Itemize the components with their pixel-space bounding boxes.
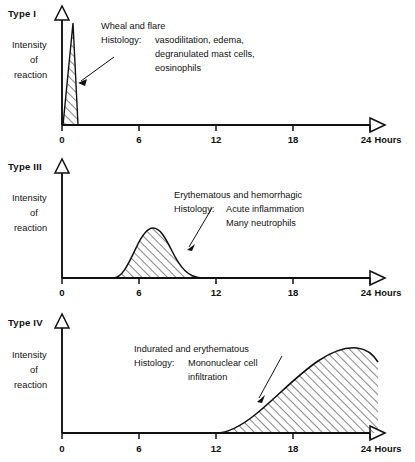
y-axis-label-line-3: reaction (14, 70, 47, 80)
panel-type-1: 0 6 12 18 24 Hours Type I Intensity of r… (0, 0, 415, 154)
y-axis-label-line-3: reaction (14, 380, 47, 390)
x-tick-label-12: 12 (211, 443, 222, 454)
annotation-line-3: infiltration (188, 372, 227, 382)
annotation-leader-arrow-icon (257, 395, 265, 403)
y-axis-label-line-2: of (30, 365, 38, 375)
annotation-line-1: Erythematous and hemorrhagic (174, 190, 303, 200)
x-axis-unit-label: Hours (375, 135, 402, 145)
x-tick-label-0: 0 (59, 134, 64, 145)
x-tick-label-24: 24 (361, 443, 372, 454)
x-tick-label-18: 18 (288, 443, 299, 454)
x-tick-label-18: 18 (288, 287, 299, 298)
chart-type-4: 0 6 12 18 24 Hours Type IV Intensity of … (0, 306, 415, 462)
panel-title-type-1: Type I (8, 8, 36, 19)
curve-area-type-3 (113, 228, 203, 278)
x-axis-arrowhead-icon (370, 271, 385, 285)
y-axis-label-line-2: of (30, 55, 38, 65)
y-axis-label-line-2: of (30, 208, 38, 218)
x-axis-unit-label: Hours (375, 288, 402, 298)
y-axis-arrowhead-icon (55, 314, 69, 328)
hypersensitivity-figure: 0 6 12 18 24 Hours Type I Intensity of r… (0, 0, 415, 462)
x-axis-arrowhead-icon (370, 118, 385, 132)
annotation-line-2: Mononuclear cell (188, 358, 257, 368)
x-axis-unit-label: Hours (375, 444, 402, 454)
annotation-line-1: Wheal and flare (101, 21, 165, 31)
y-axis-arrowhead-icon (55, 159, 69, 173)
annotation-line-4: eosinophils (155, 63, 201, 73)
y-axis-label-line-3: reaction (14, 223, 47, 233)
x-tick-label-0: 0 (59, 443, 64, 454)
annotation-line-2: Acute inflammation (226, 204, 304, 214)
annotation-line-2: vasodilitation, edema, (155, 35, 244, 45)
panel-type-3: 0 6 12 18 24 Hours Type III Intensity of… (0, 153, 415, 307)
annotation-leader-line-4 (259, 356, 282, 398)
annotation-line-1: Indurated and erythematous (134, 344, 249, 354)
x-tick-label-6: 6 (136, 134, 141, 145)
chart-type-3: 0 6 12 18 24 Hours Type III Intensity of… (0, 153, 415, 307)
y-axis-arrowhead-icon (55, 6, 69, 20)
annotation-histology-label-1: Histology: (101, 35, 141, 45)
x-tick-label-18: 18 (288, 134, 299, 145)
annotation-histology-label-3: Histology: (174, 204, 214, 214)
curve-area-type-1 (63, 23, 78, 125)
annotation-leader-line-1 (81, 57, 114, 81)
annotation-leader-arrow-icon (187, 244, 195, 251)
chart-type-1: 0 6 12 18 24 Hours Type I Intensity of r… (0, 0, 415, 154)
x-tick-label-0: 0 (59, 287, 64, 298)
annotation-line-3: degranulated mast cells, (155, 49, 255, 59)
x-tick-label-24: 24 (361, 134, 372, 145)
y-axis-label-line-1: Intensity (12, 350, 47, 360)
x-tick-label-24: 24 (361, 287, 372, 298)
panel-title-type-3: Type III (8, 161, 42, 172)
panel-type-4: 0 6 12 18 24 Hours Type IV Intensity of … (0, 306, 415, 460)
x-tick-label-12: 12 (211, 134, 222, 145)
x-tick-label-12: 12 (211, 287, 222, 298)
x-tick-label-6: 6 (136, 443, 141, 454)
annotation-line-3: Many neutrophils (226, 218, 296, 228)
y-axis-label-line-1: Intensity (12, 40, 47, 50)
y-axis-label-line-1: Intensity (12, 193, 47, 203)
annotation-histology-label-4: Histology: (134, 358, 174, 368)
panel-title-type-4: Type IV (8, 317, 43, 328)
x-tick-label-6: 6 (136, 287, 141, 298)
